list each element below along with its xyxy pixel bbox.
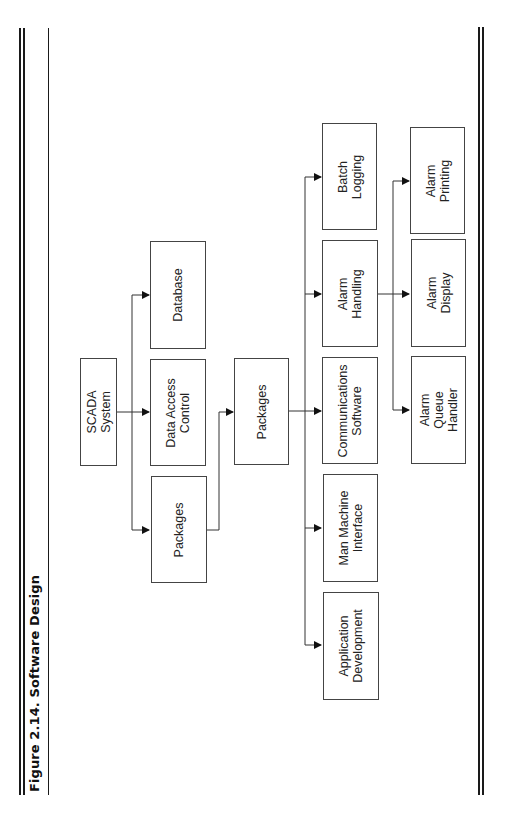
node-packages-level2: Packages [151,476,207,583]
node-alarm-printing: Alarm Printing [410,127,465,234]
node-label: SCADA System [85,390,113,433]
node-label: Application Development [337,609,365,683]
node-database: Database [150,241,206,349]
node-label: Alarm Queue Handler [418,388,460,432]
node-alarm-queue-handler: Alarm Queue Handler [411,356,466,464]
node-label: Packages [255,384,269,439]
node-label: Man Machine Interface [337,490,365,565]
node-alarm-display: Alarm Display [411,239,466,347]
node-label: Data Access Control [164,378,192,447]
node-alarm-handling: Alarm Handling [322,240,378,347]
node-label: Alarm Handling [336,269,364,318]
node-scada-system: SCADA System [80,358,117,466]
node-label: Database [171,268,185,322]
node-batch-logging: Batch Logging [322,123,377,230]
node-application-development: Application Development [323,592,379,700]
node-man-machine-interface: Man Machine Interface [323,474,378,582]
node-label: Batch Logging [336,154,364,199]
node-label: Alarm Printing [424,159,452,201]
node-data-access-control: Data Access Control [150,359,206,466]
node-label: Communications Software [336,364,364,457]
node-packages-level3: Packages [234,358,289,465]
node-label: Alarm Display [425,273,453,314]
node-communications-software: Communications Software [322,357,378,464]
node-label: Packages [172,502,186,557]
